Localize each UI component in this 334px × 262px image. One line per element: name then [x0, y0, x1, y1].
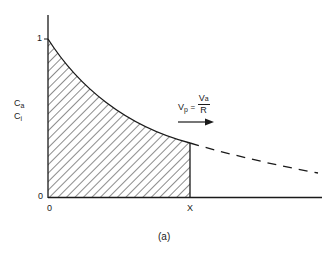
eq-fraction: Va R	[198, 94, 210, 115]
figure-caption: (a)	[158, 232, 170, 242]
y-label-c: C	[14, 98, 21, 108]
figure-canvas	[0, 0, 334, 262]
x-tick-label-x: X	[187, 204, 193, 213]
eq-num-v: V	[199, 93, 205, 103]
y-label-sub-i: i	[21, 115, 23, 122]
y-tick-label-1: 1	[37, 34, 42, 43]
y-tick-label-0: 0	[38, 192, 43, 201]
eq-equals: =	[190, 103, 195, 112]
hatched-area	[48, 39, 190, 197]
y-axis-label-numerator: Ca	[14, 99, 24, 108]
decay-curve-dashed	[190, 143, 318, 173]
y-label-sub-a: a	[21, 102, 25, 109]
eq-lhs-sub: p	[184, 106, 188, 113]
eq-denominator: R	[198, 105, 210, 115]
x-tick-label-0: 0	[47, 204, 52, 213]
eq-numerator: Va	[198, 94, 210, 105]
velocity-equation: Vp = Va R	[178, 97, 210, 118]
arrow-head-icon	[205, 119, 214, 126]
eq-num-sub: a	[205, 95, 209, 102]
y-label-c: C	[14, 111, 21, 121]
y-axis-label-denominator: Ci	[14, 112, 22, 121]
